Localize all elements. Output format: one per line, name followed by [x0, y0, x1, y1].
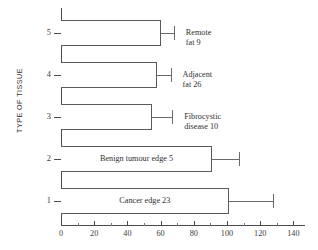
bar-label-line1: Fibrocystic [184, 112, 221, 122]
plot-area: 020406080100120140 12345 Cancer edge 23B… [61, 8, 305, 226]
y-axis-title: TYPE OF TISSUE [15, 46, 24, 156]
error-bar-line [157, 75, 170, 76]
bar-label-line2: disease 10 [184, 122, 221, 132]
chart-root: TYPE OF TISSUE 020406080100120140 12345 … [0, 0, 318, 250]
x-tick [127, 221, 128, 226]
bar-label: Remotefat 9 [186, 28, 211, 47]
y-tick-label: 2 [37, 154, 51, 163]
error-bar-line [161, 33, 174, 34]
error-bar-cap [273, 194, 274, 208]
x-tick [61, 221, 62, 226]
x-tick [227, 221, 228, 226]
bar-label: Fibrocysticdisease 10 [184, 112, 221, 131]
x-tick-minor [177, 223, 178, 226]
bar-label-line2: fat 9 [186, 38, 211, 48]
x-tick [161, 221, 162, 226]
y-tick [54, 33, 61, 34]
y-tick-label: 1 [37, 196, 51, 205]
x-tick [293, 221, 294, 226]
bar [61, 104, 152, 130]
y-tick [54, 117, 61, 118]
error-bar-cap [174, 26, 175, 40]
bar [61, 62, 157, 88]
x-tick [260, 221, 261, 226]
x-tick-minor [144, 223, 145, 226]
y-tick [54, 75, 61, 76]
bar [61, 20, 161, 46]
bar-label: Benign tumour edge 5 [61, 154, 212, 163]
error-bar-cap [239, 152, 240, 166]
bar-label: Cancer edge 23 [61, 196, 229, 205]
error-bar-cap [171, 68, 172, 82]
x-tick-label: 140 [273, 229, 313, 238]
error-bar-cap [172, 110, 173, 124]
x-tick [194, 221, 195, 226]
y-tick-label: 5 [37, 28, 51, 37]
bar-label-line1: Remote [186, 28, 211, 38]
x-tick-minor [277, 223, 278, 226]
bar-label-line1: Adjacent [183, 70, 213, 80]
error-bar-line [212, 159, 239, 160]
y-tick [54, 159, 61, 160]
y-tick-label: 4 [37, 70, 51, 79]
y-tick [54, 201, 61, 202]
x-tick-minor [111, 223, 112, 226]
x-axis-line [61, 225, 305, 226]
error-bar-line [152, 117, 172, 118]
y-tick-label: 3 [37, 112, 51, 121]
bar-label: Adjacentfat 26 [183, 70, 213, 89]
x-tick-minor [210, 223, 211, 226]
x-tick-minor [244, 223, 245, 226]
error-bar-line [229, 201, 274, 202]
bar-label-line2: fat 26 [183, 80, 213, 90]
x-tick [94, 221, 95, 226]
x-tick-minor [78, 223, 79, 226]
